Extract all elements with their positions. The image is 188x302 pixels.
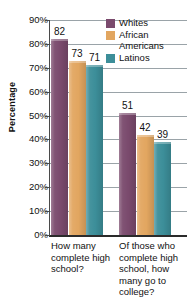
bar-value-label: 82 (47, 26, 72, 37)
bar-top-highlight (154, 142, 171, 144)
x-axis-line (49, 235, 187, 237)
legend-label: Whites (119, 17, 148, 28)
legend-item-whites[interactable]: Whites (106, 17, 188, 28)
legend-swatch-icon (106, 31, 115, 40)
category-label-1: Of those who complete high school, how m… (119, 240, 188, 298)
y-tick-label-20: 20% (2, 182, 48, 192)
bar-shading (69, 61, 86, 235)
legend-swatch-icon (106, 19, 115, 28)
y-tick-label-70: 70% (2, 63, 48, 73)
y-tick-label-40: 40% (2, 134, 48, 144)
y-tick-label-80: 80% (2, 39, 48, 49)
y-tick-mark-20 (45, 187, 50, 188)
y-axis-tick-labels: 90%80%70%60%50%40%30%20%10%0% (0, 0, 48, 302)
bar-shading (137, 135, 154, 235)
y-tick-label-10: 10% (2, 206, 48, 216)
bar-chart: Percentage 90%80%70%60%50%40%30%20%10%0%… (0, 0, 188, 302)
legend-label: African Americans (119, 29, 188, 51)
bar-latinos-group1 (154, 142, 171, 235)
legend-item-latinos[interactable]: Latinos (106, 52, 188, 63)
y-tick-mark-80 (45, 44, 50, 45)
y-tick-mark-70 (45, 68, 50, 69)
bar-shading (86, 65, 103, 235)
y-tick-label-0: 0% (2, 230, 48, 240)
y-tick-mark-90 (45, 20, 50, 21)
y-tick-mark-30 (45, 163, 50, 164)
y-tick-mark-40 (45, 139, 50, 140)
bar-shading (154, 142, 171, 235)
y-tick-mark-0 (45, 235, 50, 236)
bar-latinos-group0 (86, 65, 103, 235)
legend-swatch-icon (106, 54, 115, 63)
bar-african-americans-group0 (69, 61, 86, 235)
y-tick-label-60: 60% (2, 87, 48, 97)
legend-label: Latinos (119, 52, 150, 63)
bar-value-label: 71 (82, 52, 107, 63)
y-tick-mark-10 (45, 211, 50, 212)
bar-top-highlight (86, 65, 103, 67)
bar-whites-group0 (51, 39, 68, 235)
bar-top-highlight (119, 113, 136, 115)
legend: WhitesAfrican AmericansLatinos (106, 17, 188, 64)
legend-item-african-americans[interactable]: African Americans (106, 29, 188, 51)
category-label-0: How many complete high school? (51, 240, 117, 275)
y-tick-label-30: 30% (2, 158, 48, 168)
x-axis-category-labels: How many complete high school? Of those … (49, 240, 188, 302)
y-tick-label-90: 90% (2, 15, 48, 25)
y-tick-label-50: 50% (2, 111, 48, 121)
y-axis-line (49, 20, 50, 236)
bar-value-label: 39 (150, 129, 175, 140)
bar-shading (51, 39, 68, 235)
bar-african-americans-group1 (137, 135, 154, 235)
y-tick-mark-50 (45, 116, 50, 117)
y-tick-mark-60 (45, 92, 50, 93)
bar-top-highlight (51, 39, 68, 41)
bar-value-label: 51 (115, 100, 140, 111)
